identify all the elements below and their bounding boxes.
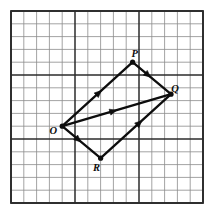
grid-outer-frame: [11, 11, 203, 203]
vertex-dot-P: [130, 60, 135, 65]
vector-diagram-canvas: OPQR: [0, 0, 213, 210]
vertex-dot-O: [60, 124, 65, 129]
vertex-label-Q: Q: [171, 83, 179, 94]
vector-diagram-figure: OPQR: [0, 0, 213, 210]
vertex-label-O: O: [49, 125, 57, 136]
arrowhead-OQ: [109, 109, 117, 115]
vertex-label-P: P: [131, 48, 138, 59]
grid-major-lines: [11, 11, 203, 203]
vertex-label-R: R: [92, 162, 100, 173]
grid-minor-lines: [11, 11, 203, 203]
vector-segment-OR: [62, 126, 100, 158]
vertex-dot-R: [98, 156, 103, 161]
